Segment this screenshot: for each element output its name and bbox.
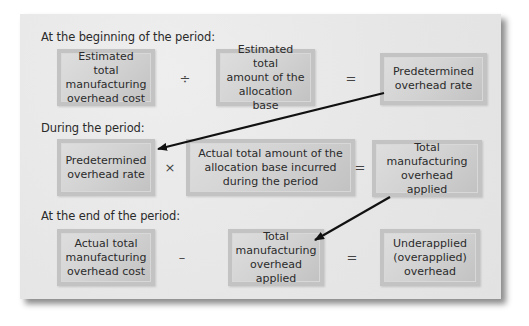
estimated-overhead-cost-box: Estimated total manufacturing overhead c… <box>57 49 155 106</box>
multiply-operator: × <box>160 160 180 175</box>
section-label-beginning: At the beginning of the period: <box>41 30 215 44</box>
equals-operator-1: = <box>341 71 361 86</box>
predetermined-overhead-rate-box: Predetermined overhead rate <box>57 139 155 196</box>
underapplied-overapplied-result-box: Underapplied (overapplied) overhead <box>380 229 480 286</box>
section-label-end: At the end of the period: <box>41 209 180 223</box>
minus-operator: – <box>172 250 192 265</box>
overhead-applied-result-box: Total manufacturing overhead applied <box>372 140 482 197</box>
estimated-allocation-base-box: Estimated total amount of the allocation… <box>216 49 315 106</box>
section-label-during: During the period: <box>41 121 145 135</box>
divide-operator: ÷ <box>175 71 195 86</box>
actual-overhead-cost-box: Actual total manufacturing overhead cost <box>57 229 155 286</box>
equals-operator-3: = <box>342 250 362 265</box>
predetermined-overhead-rate-result-box: Predetermined overhead rate <box>380 53 487 105</box>
actual-allocation-base-box: Actual total amount of the allocation ba… <box>186 139 355 196</box>
overhead-applied-box: Total manufacturing overhead applied <box>228 229 324 286</box>
equals-operator-2: = <box>350 160 370 175</box>
